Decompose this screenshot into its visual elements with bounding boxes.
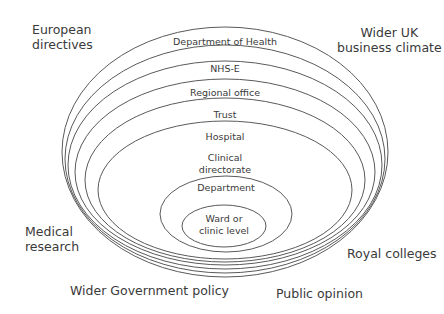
ring-label: Clinical bbox=[208, 152, 242, 163]
label-wider-uk-business-climate: Wider UK business climate bbox=[337, 25, 442, 55]
label-medical-research: Medical research bbox=[25, 224, 79, 254]
ring-label: directorate bbox=[199, 164, 251, 175]
ring-label: Department bbox=[197, 182, 255, 193]
label-royal-colleges: Royal colleges bbox=[347, 246, 437, 261]
label-wider-government-policy: Wider Government policy bbox=[70, 283, 229, 298]
ring-label: Regional office bbox=[190, 87, 260, 98]
ring-label: Ward or bbox=[205, 213, 242, 224]
ring-label: NHS-E bbox=[210, 63, 240, 74]
ring-label: clinic level bbox=[199, 225, 249, 236]
label-public-opinion: Public opinion bbox=[276, 286, 363, 301]
label-european-directives: European directives bbox=[32, 22, 93, 52]
ring-label: Hospital bbox=[206, 131, 245, 142]
ring-hospital bbox=[85, 98, 365, 262]
ring-label-group: Department of HealthNHS-ERegional office… bbox=[173, 36, 277, 236]
ring-label: Department of Health bbox=[173, 36, 277, 47]
ring-label: Trust bbox=[212, 109, 236, 120]
